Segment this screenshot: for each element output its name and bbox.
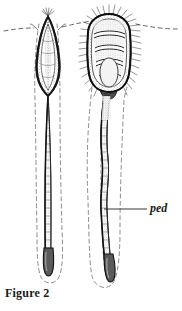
left-specimen — [30, 8, 66, 283]
left-peduncle — [45, 94, 51, 271]
right-peduncle — [100, 96, 112, 274]
right-specimen — [79, 5, 141, 287]
right-capitulum — [79, 5, 141, 99]
figure-caption: Figure 2 — [5, 286, 49, 301]
figure-panel: ped Figure 2 — [0, 0, 182, 311]
left-capitulum — [30, 8, 66, 96]
left-basal-tip — [43, 248, 53, 276]
right-basal-tip — [104, 254, 115, 282]
figure-illustration — [0, 0, 182, 311]
ped-label: ped — [150, 201, 167, 216]
